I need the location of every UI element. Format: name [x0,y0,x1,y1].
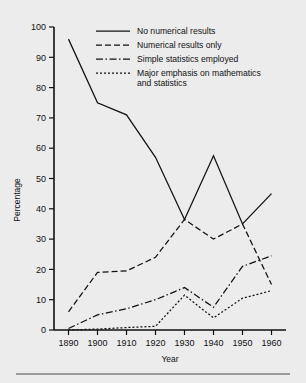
y-tick-label-20: 20 [36,265,46,275]
x-tick-label-1920: 1920 [145,338,165,348]
y-tick-label-90: 90 [36,53,46,63]
x-tick-label-1960: 1960 [261,338,281,348]
legend-label-major-emphasis-line2: and statistics [137,78,187,88]
figure-container: 0102030405060708090100 18901900191019201… [0,0,306,383]
y-tick-label-10: 10 [36,295,46,305]
x-tick-label-1950: 1950 [232,338,252,348]
y-tick-label-50: 50 [36,174,46,184]
x-tick-label-1930: 1930 [174,338,194,348]
legend-label-major-emphasis-line1: Major emphasis on mathematics [137,68,261,78]
y-axis-title: Percentage [12,178,22,222]
y-tick-label-100: 100 [31,22,46,32]
y-tick-label-40: 40 [36,204,46,214]
x-tick-label-1900: 1900 [87,338,107,348]
legend-label-numerical-results-only: Numerical results only [137,40,222,50]
y-tick-label-80: 80 [36,83,46,93]
y-tick-label-0: 0 [41,325,46,335]
y-tick-label-60: 60 [36,143,46,153]
x-axis-title: Year [161,354,178,364]
x-tick-label-1940: 1940 [203,338,223,348]
y-tick-label-70: 70 [36,113,46,123]
line-chart: 0102030405060708090100 18901900191019201… [0,0,306,383]
x-tick-label-1910: 1910 [116,338,136,348]
y-tick-label-30: 30 [36,234,46,244]
legend-label-no-numerical-results: No numerical results [137,26,215,36]
legend-label-simple-statistics-employed: Simple statistics employed [137,54,238,64]
x-tick-label-1890: 1890 [58,338,78,348]
